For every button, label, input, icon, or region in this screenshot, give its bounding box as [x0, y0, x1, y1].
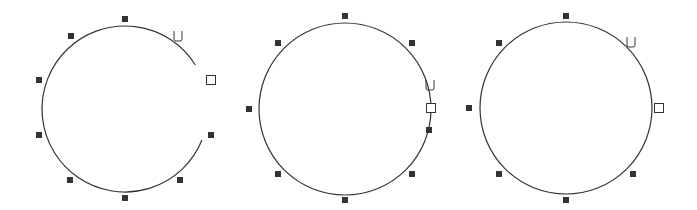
control-handle[interactable] — [409, 40, 415, 46]
control-handle[interactable] — [208, 132, 214, 138]
circle-path — [259, 23, 431, 195]
figure-closing-arc — [246, 13, 436, 203]
control-handle[interactable] — [36, 77, 42, 83]
control-handle[interactable] — [426, 127, 432, 133]
endpoint-anchor[interactable] — [207, 76, 216, 85]
control-handle[interactable] — [496, 40, 502, 46]
endpoint-anchor[interactable] — [655, 104, 664, 113]
pen-cursor-icon — [627, 37, 635, 47]
control-handle[interactable] — [409, 171, 415, 177]
control-handle[interactable] — [275, 40, 281, 46]
control-handle[interactable] — [563, 197, 569, 203]
control-handle[interactable] — [177, 177, 183, 183]
control-handle[interactable] — [36, 132, 42, 138]
diagram-canvas — [0, 0, 697, 210]
control-handle[interactable] — [466, 105, 472, 111]
control-handle[interactable] — [122, 195, 128, 201]
control-handle[interactable] — [122, 16, 128, 22]
control-handle[interactable] — [496, 171, 502, 177]
control-handle[interactable] — [630, 171, 636, 177]
pen-cursor-icon — [174, 31, 182, 41]
endpoint-anchor[interactable] — [427, 104, 436, 113]
arc-path — [42, 26, 202, 192]
figure-closed-circle — [466, 13, 664, 203]
control-handle[interactable] — [68, 33, 74, 39]
control-handle[interactable] — [246, 106, 252, 112]
circle-path — [480, 22, 652, 194]
control-handle[interactable] — [67, 177, 73, 183]
figure-open-arc — [36, 16, 216, 201]
control-handle[interactable] — [275, 171, 281, 177]
control-handle[interactable] — [342, 13, 348, 19]
control-handle[interactable] — [563, 13, 569, 19]
control-handle[interactable] — [342, 197, 348, 203]
